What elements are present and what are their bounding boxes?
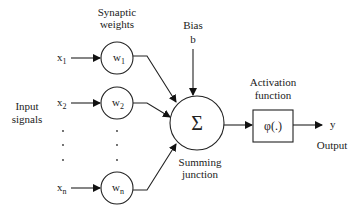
sigma-symbol: Σ bbox=[191, 112, 203, 134]
summing-label-line1: Summing bbox=[179, 156, 222, 168]
svg-text:x2: x2 bbox=[57, 96, 67, 111]
input-signals-label-line1: Input bbox=[15, 100, 38, 112]
bias-symbol: b bbox=[190, 33, 196, 45]
summing-label-line2: junction bbox=[181, 168, 219, 180]
activation-function-box: φ(.) bbox=[253, 110, 293, 142]
input-xn: xn bbox=[57, 181, 100, 196]
weight-node-w1: w1 bbox=[101, 42, 133, 74]
svg-text:w2: w2 bbox=[112, 96, 124, 111]
bias-label: Bias bbox=[183, 19, 203, 31]
output-symbol: y bbox=[330, 118, 336, 130]
activation-label-line2: function bbox=[255, 89, 292, 101]
svg-text:wn: wn bbox=[112, 181, 124, 196]
input-signals-label-line2: signals bbox=[12, 113, 43, 125]
activation-label-line1: Activation bbox=[250, 76, 297, 88]
svg-text:x1: x1 bbox=[57, 51, 67, 66]
arrow-wn-to-sum bbox=[133, 144, 176, 190]
input-ellipsis bbox=[62, 130, 64, 161]
svg-text:w1: w1 bbox=[113, 51, 125, 66]
weight-node-w2: w2 bbox=[101, 87, 133, 119]
arrow-w2-to-sum bbox=[133, 103, 170, 117]
arrow-w1-to-sum bbox=[133, 56, 176, 102]
output-label: Output bbox=[317, 139, 348, 151]
weight-node-wn: wn bbox=[101, 172, 133, 204]
input-x1: x1 bbox=[57, 51, 100, 66]
weight-ellipsis bbox=[116, 130, 118, 161]
synaptic-weights-label-line1: Synaptic bbox=[98, 6, 137, 18]
synaptic-weights-label-line2: weights bbox=[100, 18, 134, 30]
svg-text:xn: xn bbox=[57, 181, 67, 196]
input-x2: x2 bbox=[57, 96, 100, 111]
neuron-diagram: Synaptic weights Input signals x1 x2 xn … bbox=[0, 0, 363, 215]
phi-symbol: φ(.) bbox=[264, 119, 282, 133]
summing-junction: Σ bbox=[170, 96, 224, 150]
